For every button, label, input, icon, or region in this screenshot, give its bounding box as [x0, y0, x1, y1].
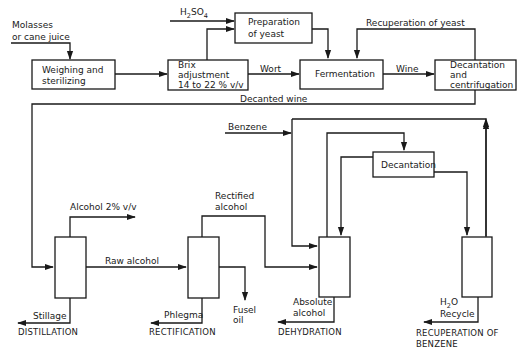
yeast-recuperation-arrow [357, 29, 475, 60]
benzene-recuperation-column [462, 237, 492, 297]
fusel-oil-arrow [219, 267, 245, 300]
molasses-label-2: or cane juice [12, 32, 70, 42]
yeast-recuperation-label: Recuperation of yeast [366, 18, 465, 28]
fusel-label-1: Fusel [233, 305, 256, 315]
weighing-label-2: sterilizing [42, 76, 86, 86]
yeast-label-2: of yeast [248, 29, 285, 39]
h2so4-label: H2SO4 [180, 7, 208, 20]
distillation-column [55, 237, 86, 298]
brix-to-yeast-arrow [207, 29, 234, 60]
decant-centri-label-1: Decantation [450, 60, 505, 70]
yeast-label-1: Preparation [248, 17, 300, 27]
stage-recuperation-1: RECUPERATION OF [416, 328, 499, 338]
recycle-label: Recycle [440, 309, 475, 319]
molasses-label-1: Molasses [12, 20, 53, 30]
fusel-label-2: oil [233, 315, 244, 325]
dehydration-column [319, 237, 350, 297]
alcohol-2pct-arrow [70, 217, 135, 237]
stage-rectification: RECTIFICATION [149, 327, 216, 337]
decantation-to-dehydration-arrow [341, 157, 373, 235]
rectification-column [188, 237, 219, 298]
benzene-feed-line [292, 119, 317, 246]
dehydration-to-decantation-arrow [327, 133, 404, 237]
brix-label-1: Brix [178, 60, 196, 70]
decantation-label: Decantation [381, 160, 436, 170]
decanted-wine-line [32, 90, 475, 267]
rectified-label-1: Rectified [215, 191, 254, 201]
absolute-label-1: Absolute [293, 297, 333, 307]
yeast-to-fermentation-arrow [312, 29, 328, 58]
stage-distillation: DISTILLATION [18, 327, 78, 337]
rectified-label-2: alcohol [215, 202, 247, 212]
stage-dehydration: DEHYDRATION [278, 327, 342, 337]
decant-centri-label-3: centrifugation [450, 80, 513, 90]
decanted-wine-label: Decanted wine [240, 94, 308, 104]
raw-alcohol-label: Raw alcohol [105, 256, 159, 266]
stage-recuperation-2: BENZENE [416, 339, 458, 349]
process-flow-diagram: Molasses or cane juice Weighing and ster… [0, 0, 521, 357]
phlegma-label: Phlegma [164, 310, 203, 320]
brix-label-2: adjustment [178, 70, 230, 80]
wine-label: Wine [396, 64, 419, 74]
molasses-arrow [11, 43, 70, 59]
stillage-label: Stillage [33, 311, 67, 321]
decantation-to-recuperation-arrow [434, 172, 467, 235]
fermentation-label: Fermentation [315, 69, 375, 79]
weighing-label-1: Weighing and [42, 65, 104, 75]
wort-label: Wort [260, 64, 282, 74]
alcohol-2pct-label: Alcohol 2% v/v [70, 202, 137, 212]
benzene-label: Benzene [228, 122, 267, 132]
absolute-label-2: alcohol [293, 308, 325, 318]
decant-centri-label-2: and [450, 70, 467, 80]
brix-label-3: 14 to 22 % v/v [178, 80, 244, 90]
